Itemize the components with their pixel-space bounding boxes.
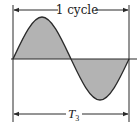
negative-half-cycle (71, 59, 129, 100)
positive-half-cycle (13, 17, 71, 59)
period-label: T3 (68, 106, 79, 123)
sine-cycle-diagram: 1 cycle T3 (0, 0, 139, 129)
period-label-subscript: 3 (75, 114, 79, 123)
cycle-label: 1 cycle (56, 3, 99, 17)
